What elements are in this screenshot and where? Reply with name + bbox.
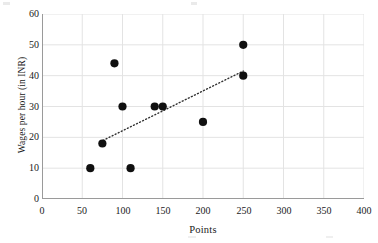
x-tick-label: 50 — [77, 206, 87, 216]
data-point-marker — [239, 72, 247, 80]
plot-area — [42, 14, 364, 199]
x-tick-label: 250 — [237, 206, 252, 216]
x-axis-title: Points — [42, 224, 364, 236]
data-point-marker — [126, 164, 134, 172]
x-tick-label: 150 — [156, 206, 171, 216]
data-point-marker — [110, 59, 118, 67]
x-tick-label: 400 — [357, 206, 372, 216]
x-tick-label: 0 — [40, 206, 45, 216]
x-tick-label: 350 — [317, 206, 332, 216]
data-point-marker — [199, 118, 207, 126]
data-point-marker — [159, 102, 167, 110]
x-tick-label: 100 — [116, 206, 131, 216]
scatter-chart-figure: Wages per hour (in INR) 60 50 40 30 20 1… — [0, 0, 378, 243]
plot-svg — [42, 14, 364, 199]
x-tick-label: 200 — [196, 206, 211, 216]
data-point-marker — [151, 102, 159, 110]
data-point-marker — [239, 41, 247, 49]
data-point-marker — [98, 139, 106, 147]
x-tick-label: 300 — [277, 206, 292, 216]
data-point-marker — [118, 102, 126, 110]
data-point-marker — [86, 164, 94, 172]
